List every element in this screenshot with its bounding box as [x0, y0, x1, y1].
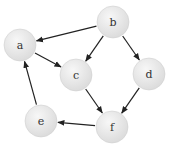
edge-f-to-e [58, 122, 95, 125]
directed-graph-diagram: abcdef [0, 0, 177, 152]
edge-b-to-c [86, 36, 104, 61]
edge-d-to-f [122, 88, 140, 113]
node-e: e [25, 105, 57, 137]
node-label: e [38, 115, 45, 128]
edge-a-to-c [35, 53, 61, 67]
edge-b-to-a [37, 26, 97, 41]
node-b: b [97, 6, 129, 38]
node-label: c [73, 69, 79, 82]
node-c: c [60, 59, 92, 91]
edge-b-to-d [123, 36, 140, 60]
node-label: b [109, 16, 116, 29]
edge-c-to-f [86, 89, 103, 113]
node-a: a [4, 29, 36, 61]
node-label: a [17, 39, 24, 52]
node-label: d [145, 68, 152, 81]
node-f: f [96, 111, 128, 143]
node-d: d [133, 58, 165, 90]
edge-e-to-a [25, 61, 37, 104]
